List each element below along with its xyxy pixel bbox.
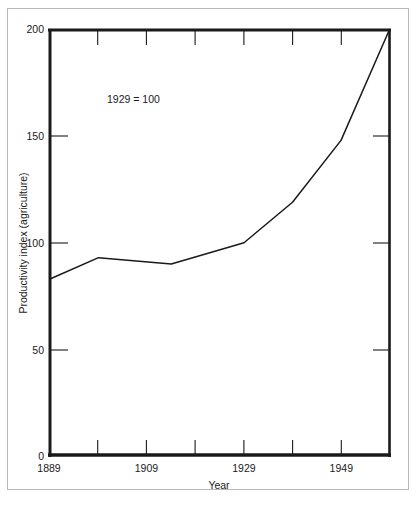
y-axis-title: Productivity index (agriculture) xyxy=(17,172,29,313)
x-axis-title: Year xyxy=(208,479,230,491)
plot-area-background xyxy=(49,29,390,456)
x-tick-label-1909: 1909 xyxy=(135,462,159,474)
x-axis-tick-labels: 1889 1909 1929 1949 xyxy=(37,462,353,474)
y-tick-label-150: 150 xyxy=(26,130,44,142)
chart-figure: 200 150 100 50 0 1889 1909 1929 1949 Yea… xyxy=(0,0,417,508)
x-tick-label-1929: 1929 xyxy=(232,462,256,474)
line-chart: 200 150 100 50 0 1889 1909 1929 1949 Yea… xyxy=(0,0,417,508)
y-tick-label-50: 50 xyxy=(32,344,44,356)
x-tick-label-1889: 1889 xyxy=(37,462,61,474)
x-tick-label-1949: 1949 xyxy=(330,462,354,474)
y-tick-label-0: 0 xyxy=(38,450,44,462)
y-tick-label-100: 100 xyxy=(26,237,44,249)
y-axis-tick-labels: 200 150 100 50 0 xyxy=(26,23,44,462)
base-year-annotation: 1929 = 100 xyxy=(107,93,160,105)
plot-frame xyxy=(48,29,391,457)
figure-page: 200 150 100 50 0 1889 1909 1929 1949 Yea… xyxy=(0,0,417,508)
y-tick-label-200: 200 xyxy=(26,23,44,35)
